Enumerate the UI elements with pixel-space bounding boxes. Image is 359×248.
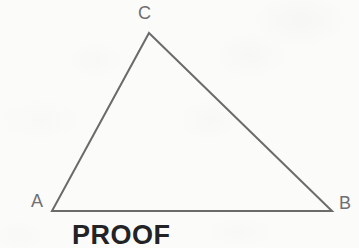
triangle-outline: [52, 33, 332, 211]
figure-caption: PROOF: [72, 222, 171, 248]
vertex-label-a: A: [31, 192, 43, 210]
vertex-label-c: C: [138, 4, 151, 22]
vertex-label-b: B: [339, 194, 351, 212]
figure-canvas: C A B PROOF: [0, 0, 359, 248]
triangle-diagram: [0, 0, 359, 248]
